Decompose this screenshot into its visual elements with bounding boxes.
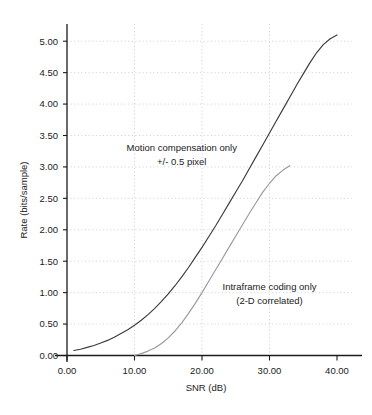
y-tick-label: 4.00 [40,98,59,109]
y-tick-label: 3.00 [40,161,59,172]
x-tick-label: 0.00 [58,365,77,376]
x-tick-label: 30.00 [258,365,282,376]
x-axis-title: SNR (dB) [186,382,227,393]
y-tick-label: 4.50 [40,67,59,78]
intraframe-label: Intraframe coding only [223,281,317,292]
motion-compensation-label: Motion compensation only [127,142,238,153]
x-tick-label: 10.00 [123,365,147,376]
chart-figure: 0.000.501.001.502.002.503.003.504.004.50… [0,0,372,415]
y-tick-label: 5.00 [40,36,59,47]
y-tick-label: 2.00 [40,224,59,235]
rate-vs-snr-chart: 0.000.501.001.502.002.503.003.504.004.50… [0,0,372,415]
y-tick-label: 2.50 [40,193,59,204]
x-tick-label: 40.00 [325,365,349,376]
y-tick-label: 1.00 [40,287,59,298]
y-axis-title: Rate (bits/sample) [18,161,29,238]
y-tick-label: 0.50 [40,318,59,329]
y-tick-label: 0.00 [40,350,59,361]
y-tick-label: 1.50 [40,256,59,267]
x-tick-label: 20.00 [190,365,214,376]
y-tick-label: 3.50 [40,130,59,141]
motion-compensation-label: +/- 0.5 pixel [157,156,206,167]
intraframe-label: (2-D correlated) [236,295,303,306]
